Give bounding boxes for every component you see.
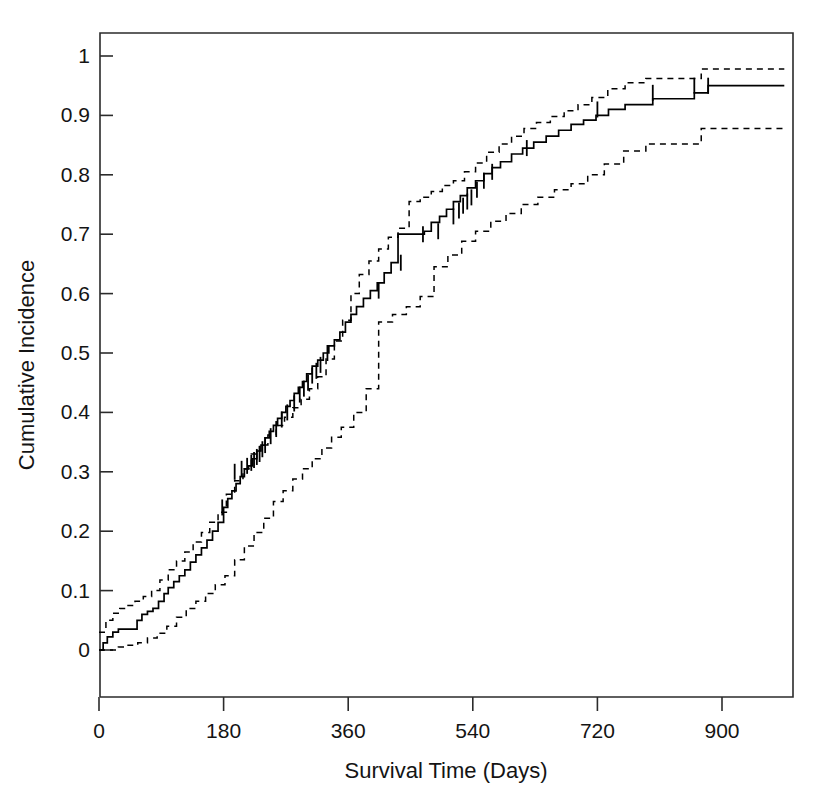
y-tick-label: 0.5 (61, 341, 90, 364)
y-tick-label: 1 (78, 44, 90, 67)
plot-frame (100, 33, 793, 697)
censor-marks (222, 78, 708, 516)
y-axis-ticks (100, 56, 113, 650)
x-tick-label: 720 (580, 719, 615, 742)
y-tick-label: 0.7 (61, 222, 90, 245)
y-axis-tick-labels: 00.10.20.30.40.50.60.70.80.91 (61, 44, 91, 661)
y-tick-label: 0 (78, 638, 90, 661)
x-tick-label: 540 (455, 719, 490, 742)
lower-confidence-band (99, 128, 784, 650)
survival-curve-figure: 00.10.20.30.40.50.60.70.80.91 0180360540… (0, 0, 827, 799)
y-tick-label: 0.9 (61, 103, 90, 126)
x-tick-label: 900 (704, 719, 739, 742)
x-tick-label: 360 (331, 719, 366, 742)
y-tick-label: 0.2 (61, 519, 90, 542)
y-tick-label: 0.1 (61, 579, 90, 602)
y-tick-label: 0.6 (61, 282, 90, 305)
x-tick-label: 180 (206, 719, 241, 742)
y-axis-title: Cumulative Incidence (14, 260, 39, 470)
y-tick-label: 0.4 (61, 400, 91, 423)
y-tick-label: 0.3 (61, 460, 90, 483)
x-axis-tick-labels: 0180360540720900 (93, 719, 739, 742)
y-tick-label: 0.8 (61, 163, 90, 186)
x-axis-ticks (99, 697, 722, 711)
cumulative-incidence-chart: 00.10.20.30.40.50.60.70.80.91 0180360540… (0, 0, 827, 799)
x-tick-label: 0 (93, 719, 105, 742)
cumulative-incidence-curve (99, 86, 784, 650)
x-axis-title: Survival Time (Days) (345, 758, 548, 783)
